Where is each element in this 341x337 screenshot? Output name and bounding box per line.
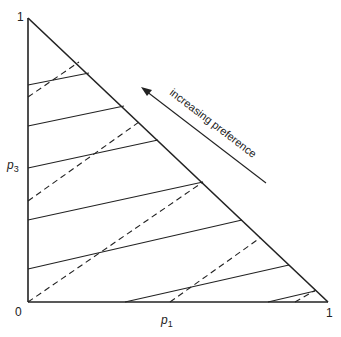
y-axis-label: p3	[7, 158, 19, 174]
x-axis-var: p	[161, 313, 168, 327]
probability-triangle-diagram	[0, 0, 341, 337]
right-vertex-label: 1	[326, 306, 333, 320]
top-vertex-label: 1	[17, 10, 24, 24]
preference-arrow	[141, 87, 266, 183]
triangle-outline	[28, 18, 328, 302]
y-axis-var: p	[7, 158, 14, 172]
indifference-curves	[28, 73, 315, 302]
x-axis-subscript: 1	[168, 319, 173, 329]
origin-label: 0	[15, 305, 22, 319]
x-axis-label: p1	[161, 313, 173, 329]
y-axis-subscript: 3	[14, 164, 19, 174]
hypotenuse	[28, 18, 328, 302]
